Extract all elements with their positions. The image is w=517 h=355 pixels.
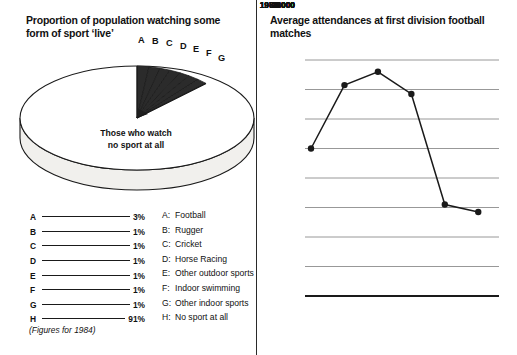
leader-line (42, 216, 130, 217)
list-item: A: Football (162, 210, 257, 225)
data-point-1971 (375, 69, 381, 75)
name-key-letter: G: (162, 298, 175, 313)
list-item: G: Other indoor sports (162, 298, 257, 313)
series-line (311, 72, 478, 212)
percent-key-letter: D (30, 256, 42, 266)
leader-line (42, 245, 130, 246)
x-tick-1984: 1984 (257, 0, 281, 10)
list-item: B: Rugger (162, 225, 257, 240)
pie-wedge-label-a: A (138, 35, 145, 45)
name-key-letter: H: (162, 312, 175, 327)
percent-key-letter: A (30, 212, 42, 222)
list-item: F 1% (30, 283, 145, 298)
percent-key-value: 3% (133, 212, 145, 222)
list-item: D 1% (30, 254, 145, 269)
pie-chart-panel: Proportion of population watching some f… (0, 0, 256, 355)
name-key-label: Football (175, 210, 206, 225)
percent-key-letter: C (30, 241, 42, 251)
name-key-letter: E: (162, 268, 175, 283)
pie-wedge-label-f: F (206, 48, 212, 58)
list-item: F: Indoor swimming (162, 283, 257, 298)
leader-line (42, 318, 125, 319)
percent-key-value: 1% (133, 256, 145, 266)
line-chart-figure (257, 48, 517, 348)
name-key-letter: A: (162, 210, 175, 225)
data-point-1976 (408, 91, 414, 97)
pie-wedge-label-e: E (193, 44, 199, 54)
line-chart-panel: Average attendances at first division fo… (257, 0, 517, 355)
leader-line (42, 231, 130, 232)
line-chart-title: Average attendances at first division fo… (270, 14, 514, 40)
leader-line (42, 260, 130, 261)
list-item: A 3% (30, 210, 145, 225)
list-item: D: Horse Racing (162, 254, 257, 269)
name-key-label: Horse Racing (175, 254, 227, 269)
percent-key-letter: E (30, 271, 42, 281)
pie-wedge-label-b: B (152, 36, 159, 46)
data-point-1981 (442, 201, 448, 207)
name-key-label: Rugger (175, 225, 203, 240)
data-point-1966 (341, 82, 347, 88)
pie-wedge-label-d: D (180, 41, 187, 51)
data-point-1961 (308, 145, 314, 151)
percent-key-value: 1% (133, 285, 145, 295)
list-item: B 1% (30, 225, 145, 240)
percent-key-value: 1% (133, 271, 145, 281)
name-key-letter: C: (162, 239, 175, 254)
leader-line (42, 304, 130, 305)
percent-key-value: 1% (133, 227, 145, 237)
pie-center-annotation-line2: no sport at all (56, 140, 216, 152)
list-item: E: Other outdoor sports (162, 268, 257, 283)
percent-key-value: 91% (128, 314, 145, 324)
pie-percent-key: A 3% B 1% C 1% D 1% E 1% F 1% (30, 210, 145, 327)
name-key-label: Cricket (175, 239, 202, 254)
list-item: C: Cricket (162, 239, 257, 254)
name-key-letter: F: (162, 283, 175, 298)
pie-wedge-label-c: C (166, 38, 173, 48)
pie-center-annotation: Those who watch no sport at all (56, 128, 216, 151)
pie-center-annotation-line1: Those who watch (56, 128, 216, 140)
percent-key-value: 1% (133, 241, 145, 251)
list-item: C 1% (30, 239, 145, 254)
leader-line (42, 289, 130, 290)
percent-key-letter: F (30, 285, 42, 295)
percent-key-value: 1% (133, 300, 145, 310)
pie-footnote: (Figures for 1984) (29, 325, 96, 335)
leader-line (42, 275, 130, 276)
list-item: G 1% (30, 298, 145, 313)
name-key-label: Other indoor sports (175, 298, 249, 313)
data-point-1984 (475, 209, 481, 215)
name-key-letter: D: (162, 254, 175, 269)
pie-name-key: A: Football B: Rugger C: Cricket D: Hors… (162, 210, 257, 327)
name-key-label: No sport at all (175, 312, 228, 327)
percent-key-letter: G (30, 300, 42, 310)
list-item: E 1% (30, 268, 145, 283)
name-key-letter: B: (162, 225, 175, 240)
gridlines (305, 60, 499, 296)
pie-wedge-label-g: G (218, 53, 225, 63)
attendance-series (308, 69, 482, 216)
list-item: H: No sport at all (162, 312, 257, 327)
name-key-label: Other outdoor sports (175, 268, 254, 283)
name-key-label: Indoor swimming (175, 283, 240, 298)
percent-key-letter: B (30, 227, 42, 237)
percent-key-letter: H (30, 314, 42, 324)
